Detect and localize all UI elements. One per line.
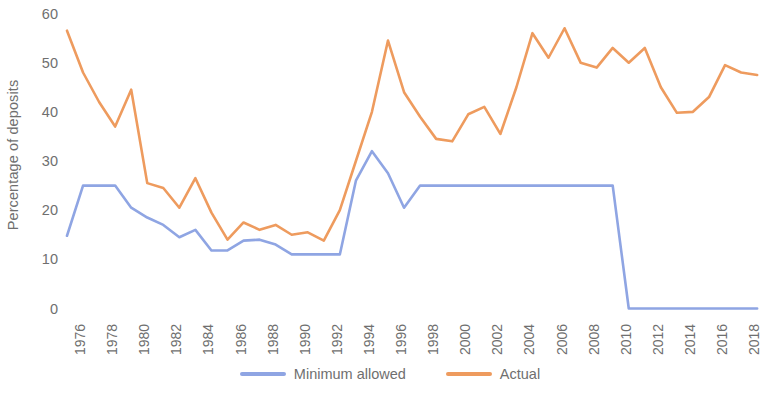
x-axis-tick-label: 2000 (458, 324, 472, 355)
x-axis-tick-label: 2010 (619, 324, 633, 355)
line-chart: Percentage of deposits 0102030405060 197… (0, 0, 780, 395)
legend-item-2[interactable]: Actual (446, 366, 540, 382)
x-axis-tick-label: 2008 (587, 324, 601, 355)
legend-item-1[interactable]: Minimum allowed (240, 366, 406, 382)
x-axis-tick-label: 1998 (426, 324, 440, 355)
legend-swatch-icon (240, 372, 286, 375)
x-axis-tick-label: 2004 (522, 324, 536, 355)
legend-swatch-icon (446, 372, 492, 375)
x-axis-tick-label: 1982 (169, 324, 183, 355)
x-axis-tick-label: 1994 (362, 324, 376, 355)
x-axis-tick-label: 1990 (298, 324, 312, 355)
x-axis-tick-label: 2012 (651, 324, 665, 355)
x-axis-tick-label: 2018 (747, 324, 761, 355)
x-axis-tick-label: 1992 (330, 324, 344, 355)
x-axis-tick-label: 2006 (555, 324, 569, 355)
x-axis-tick-label: 1996 (394, 324, 408, 355)
x-axis-tick-label: 1988 (266, 324, 280, 355)
x-axis-tick-label: 1980 (137, 324, 151, 355)
x-axis-tick-label: 2002 (490, 324, 504, 355)
x-axis-tick-label: 1986 (234, 324, 248, 355)
legend-label: Minimum allowed (294, 366, 406, 382)
x-axis-tick-label: 1984 (201, 324, 215, 355)
x-axis-tick-label: 1976 (73, 324, 87, 355)
chart-legend: Minimum allowedActual (0, 366, 780, 382)
x-axis-tick-label: 2016 (715, 324, 729, 355)
x-axis-tick-labels: 1976197819801982198419861988199019921994… (0, 0, 780, 395)
legend-label: Actual (500, 366, 540, 382)
x-axis-tick-label: 2014 (683, 324, 697, 355)
x-axis-tick-label: 1978 (105, 324, 119, 355)
